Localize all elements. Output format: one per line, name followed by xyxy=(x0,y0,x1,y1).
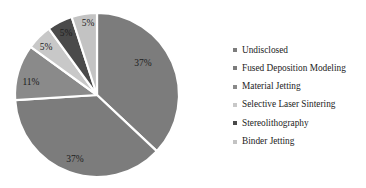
chart-legend: UndisclosedFused Deposition ModelingMate… xyxy=(233,41,366,151)
legend-swatch-icon xyxy=(233,121,237,125)
pie-slice-data-label: 37% xyxy=(66,154,84,164)
legend-swatch-icon xyxy=(233,48,237,52)
legend-item-label: Fused Deposition Modeling xyxy=(242,64,346,73)
legend-item[interactable]: Fused Deposition Modeling xyxy=(233,59,366,77)
legend-item-label: Selective Laser Sintering xyxy=(242,100,335,109)
pie-chart-svg: 37%37%11%5%5%5% xyxy=(0,0,200,188)
legend-item[interactable]: Stereolithography xyxy=(233,114,366,132)
legend-item[interactable]: Material Jetting xyxy=(233,78,366,96)
legend-item-label: Undisclosed xyxy=(242,46,288,55)
pie-slice-data-label: 37% xyxy=(134,58,152,68)
pie-slices-group xyxy=(15,13,179,177)
legend-swatch-icon xyxy=(233,103,237,107)
legend-item-label: Binder Jetting xyxy=(242,137,294,146)
pie-slice-data-label: 11% xyxy=(22,77,39,87)
legend-swatch-icon xyxy=(233,66,237,70)
pie-slice-data-label: 5% xyxy=(40,42,53,52)
legend-swatch-icon xyxy=(233,140,237,144)
pie-slice-data-label: 5% xyxy=(82,18,95,28)
pie-chart-figure: 37%37%11%5%5%5% UndisclosedFused Deposit… xyxy=(0,0,366,188)
pie-slice-data-label: 5% xyxy=(60,28,73,38)
legend-item-label: Stereolithography xyxy=(242,119,309,128)
legend-item[interactable]: Binder Jetting xyxy=(233,132,366,150)
legend-swatch-icon xyxy=(233,85,237,89)
legend-item[interactable]: Undisclosed xyxy=(233,41,366,59)
legend-item[interactable]: Selective Laser Sintering xyxy=(233,96,366,114)
pie-chart-plot-area: 37%37%11%5%5%5% xyxy=(0,0,200,188)
legend-item-label: Material Jetting xyxy=(242,82,301,91)
